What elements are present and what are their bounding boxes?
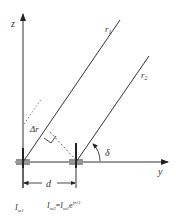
dotted-guide xyxy=(24,98,42,124)
path-difference-label: Δr xyxy=(29,124,39,134)
y-axis-label: y xyxy=(157,166,163,177)
current-element-2-formula: Im2=Im1ejπ/2 xyxy=(46,200,81,211)
z-axis-label: z xyxy=(10,18,15,29)
array-diagram: z y r1 r2 Δr δ d Im1 Im2=Im1ejπ/2 xyxy=(0,0,176,219)
right-angle-marker xyxy=(44,136,56,143)
ray-r2-label: r2 xyxy=(141,70,148,81)
spacing-label: d xyxy=(46,178,52,189)
angle-arc xyxy=(93,144,100,161)
path-difference-line xyxy=(49,131,76,160)
current-element-1: Im1 xyxy=(14,203,24,213)
angle-label: δ xyxy=(105,147,110,158)
ray-r2 xyxy=(76,56,149,162)
ray-r1 xyxy=(23,20,120,162)
ray-r1-label: r1 xyxy=(105,24,112,35)
